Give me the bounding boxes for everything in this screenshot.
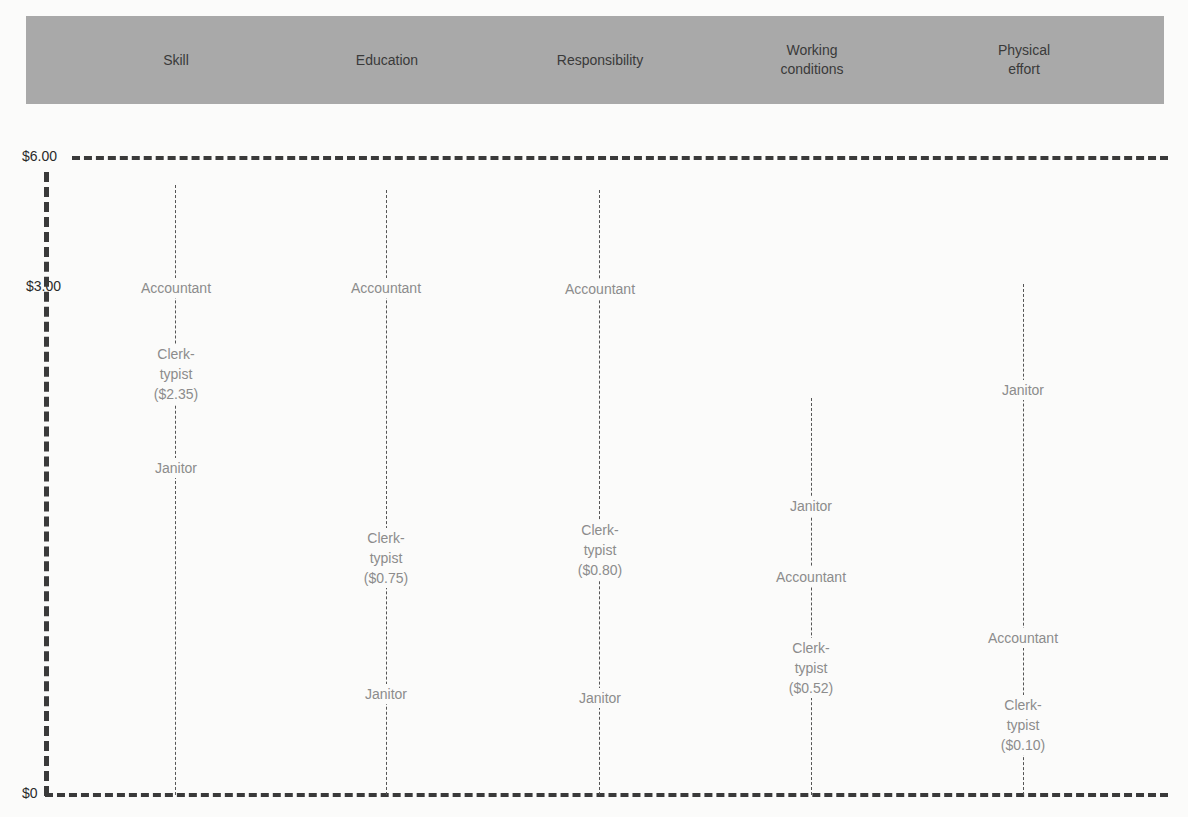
zero-dollar-line (45, 793, 1168, 797)
factor-skill: Skill (86, 16, 266, 104)
education-accountant: Accountant (316, 278, 456, 298)
physical-effort-janitor: Janitor (953, 380, 1093, 400)
responsibility-janitor: Janitor (530, 688, 670, 708)
axis-label-0: $0 (22, 785, 38, 801)
skill-clerk-typist: Clerk- typist ($2.35) (106, 344, 246, 404)
factor-physical-effort: Physical effort (934, 16, 1114, 104)
factor-working-conditions: Working conditions (722, 16, 902, 104)
y-axis (44, 172, 49, 796)
physical-effort-clerk-typist: Clerk- typist ($0.10) (953, 695, 1093, 755)
skill-janitor: Janitor (106, 458, 246, 478)
six-dollar-line (72, 156, 1168, 160)
skill-accountant: Accountant (106, 278, 246, 298)
working-conditions-accountant: Accountant (741, 567, 881, 587)
factor-responsibility: Responsibility (510, 16, 690, 104)
working-conditions-clerk-typist: Clerk- typist ($0.52) (741, 638, 881, 698)
axis-label-6: $6.00 (22, 148, 57, 164)
education-clerk-typist: Clerk- typist ($0.75) (316, 528, 456, 588)
responsibility-clerk-typist: Clerk- typist ($0.80) (530, 520, 670, 580)
responsibility-accountant: Accountant (530, 279, 670, 299)
column-line-working-conditions (811, 398, 812, 795)
physical-effort-accountant: Accountant (953, 628, 1093, 648)
working-conditions-janitor: Janitor (741, 496, 881, 516)
column-line-skill (175, 185, 176, 795)
education-janitor: Janitor (316, 684, 456, 704)
factor-education: Education (297, 16, 477, 104)
factor-header-band: Skill Education Responsibility Working c… (26, 16, 1164, 104)
